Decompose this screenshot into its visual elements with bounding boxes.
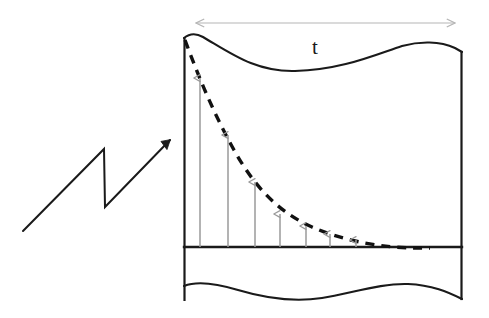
impulse-arrow-group (200, 78, 356, 247)
panel-top-wave-edge (184, 34, 462, 71)
panel-bottom-wave-edge (184, 283, 462, 300)
callout-zigzag-path (23, 140, 170, 231)
callout-zigzag-arrow (23, 140, 170, 231)
figure-canvas (0, 0, 489, 318)
duration-label-t: t (312, 37, 318, 58)
figure-root: t (0, 0, 489, 318)
signal-panel (184, 34, 462, 300)
